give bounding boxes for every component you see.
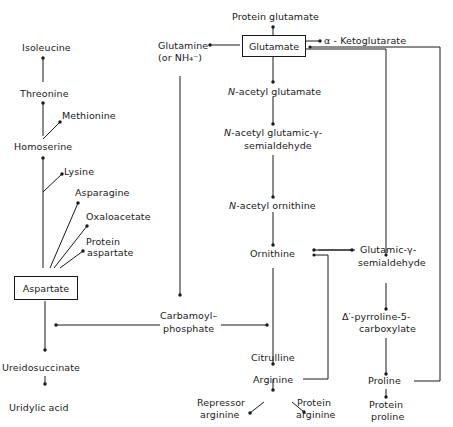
node-methionine: Methionine xyxy=(62,110,116,121)
node-protein-aspartate-line2: aspartate xyxy=(87,247,134,258)
node-glutamate: Glutamate xyxy=(242,35,306,57)
node-arginine: Arginine xyxy=(253,374,293,385)
pathway-diagram: Isoleucine Threonine Methionine Homoseri… xyxy=(0,0,453,427)
node-glutamine-line1: Glutamine xyxy=(158,40,208,51)
node-n-acetyl-glutamic-line2: semialdehyde xyxy=(244,140,312,151)
node-isoleucine: Isoleucine xyxy=(22,42,71,53)
node-repressor-arginine-line1: Repressor xyxy=(197,397,245,408)
node-lysine: Lysine xyxy=(64,166,94,177)
node-oxaloacetate: Oxaloacetate xyxy=(86,211,151,222)
node-pyrroline-line1: Δ′-pyrroline-5- xyxy=(342,311,411,322)
node-pyrroline-line2: carboxylate xyxy=(359,323,416,334)
node-threonine: Threonine xyxy=(20,88,69,99)
node-protein-arginine-line2: arginine xyxy=(296,409,336,420)
node-glutamic-semialdehyde-line2: semialdehyde xyxy=(358,257,426,268)
node-alpha-ketoglutarate: α - Ketoglutarate xyxy=(324,35,406,46)
node-repressor-arginine-line2: arginine xyxy=(200,409,240,420)
node-ureidosuccinate: Ureidosuccinate xyxy=(2,362,80,373)
node-n-acetyl-ornithine: N-acetyl ornithine xyxy=(229,200,316,211)
node-aspartate-label: Aspartate xyxy=(23,283,69,294)
node-n-acetyl-glutamic-line1: N-acetyl glutamic-γ- xyxy=(224,127,322,138)
node-citrulline: Citrulline xyxy=(251,352,295,363)
node-glutamine-line2: (or NH₄⁻) xyxy=(158,52,202,63)
node-glutamate-label: Glutamate xyxy=(249,41,299,52)
node-protein-proline-line1: Protein xyxy=(369,399,403,410)
node-protein-aspartate-line1: Protein xyxy=(86,236,120,247)
node-glutamic-semialdehyde-line1: Glutamic-γ- xyxy=(360,244,416,255)
node-homoserine: Homoserine xyxy=(14,141,72,152)
node-carbamoyl-line2: phosphate xyxy=(163,323,214,334)
node-uridylic-acid: Uridylic acid xyxy=(9,402,69,413)
node-protein-glutamate: Protein glutamate xyxy=(232,11,319,22)
node-n-acetyl-glutamate: N-acetyl glutamate xyxy=(228,86,321,97)
node-proline: Proline xyxy=(368,375,401,386)
node-ornithine: Ornithine xyxy=(250,248,295,259)
node-asparagine: Asparagine xyxy=(75,187,130,198)
node-protein-arginine-line1: Protein xyxy=(297,397,331,408)
node-aspartate: Aspartate xyxy=(14,276,78,300)
node-protein-proline-line2: proline xyxy=(371,411,404,422)
node-carbamoyl-line1: Carbamoyl– xyxy=(160,310,217,321)
